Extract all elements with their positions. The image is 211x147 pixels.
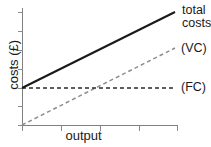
y-axis-label: costs (£) [7,30,21,100]
variable-costs-line [22,48,175,125]
total-costs-label-line2: costs [182,17,211,30]
x-axis-label-text: output [65,128,101,143]
cost-curves-chart: total costs (VC) (FC) output costs (£) [0,0,211,147]
variable-costs-label: (VC) [181,42,207,55]
total-costs-line [22,12,175,88]
total-costs-label-line1: total [182,4,211,17]
chart-plot-area [0,0,211,147]
x-axis-label: output [0,129,211,143]
total-costs-label: total costs [182,4,211,31]
fixed-costs-label: (FC) [181,81,206,94]
